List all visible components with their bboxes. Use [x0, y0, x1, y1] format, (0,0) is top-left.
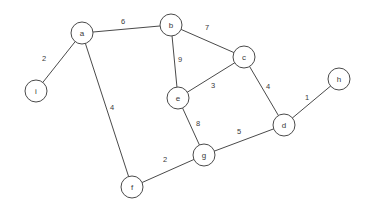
- edge-weight-c-d: 4: [266, 82, 270, 91]
- nodes-layer: abcdefghi: [25, 14, 350, 198]
- edge-weight-f-g: 2: [163, 155, 167, 164]
- edge-weight-e-g: 8: [196, 119, 200, 128]
- node-f[interactable]: f: [121, 176, 143, 198]
- edge-d-h: [292, 86, 330, 118]
- edge-f-g: [142, 159, 194, 182]
- node-label-g: g: [202, 151, 206, 160]
- node-d[interactable]: d: [273, 114, 295, 136]
- graph-canvas: 62479341582 abcdefghi: [0, 0, 367, 207]
- edge-b-e: [172, 36, 177, 87]
- edge-weight-a-b: 6: [121, 17, 125, 26]
- edge-a-f: [85, 43, 128, 176]
- edge-weight-d-h: 1: [305, 93, 309, 102]
- edge-weight-c-e: 3: [211, 81, 215, 90]
- node-label-b: b: [169, 21, 174, 30]
- node-label-a: a: [80, 29, 85, 38]
- edge-a-i: [43, 42, 75, 83]
- node-label-h: h: [337, 75, 341, 84]
- edge-c-d: [250, 66, 279, 115]
- node-label-e: e: [176, 94, 181, 103]
- node-i[interactable]: i: [25, 80, 47, 102]
- edge-d-g: [214, 129, 273, 151]
- node-h[interactable]: h: [328, 68, 350, 90]
- node-label-d: d: [282, 121, 286, 130]
- node-c[interactable]: c: [233, 46, 255, 68]
- edge-b-c: [181, 29, 234, 52]
- edge-weight-b-e: 9: [178, 55, 182, 64]
- node-a[interactable]: a: [71, 22, 93, 44]
- edge-weight-d-g: 5: [237, 127, 241, 136]
- edge-weight-a-i: 2: [42, 54, 46, 63]
- node-label-i: i: [35, 87, 37, 96]
- node-g[interactable]: g: [193, 144, 215, 166]
- graph-diagram: 62479341582 abcdefghi: [0, 0, 367, 207]
- node-b[interactable]: b: [160, 14, 182, 36]
- edge-weight-a-f: 4: [110, 103, 114, 112]
- node-label-c: c: [242, 53, 246, 62]
- edge-a-b: [93, 26, 160, 32]
- node-e[interactable]: e: [167, 87, 189, 109]
- edge-weight-b-c: 7: [205, 23, 209, 32]
